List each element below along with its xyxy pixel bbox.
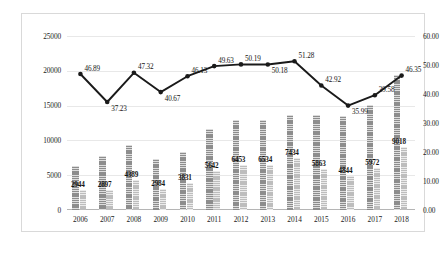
bar-value-label: 2944 [71,181,85,189]
y-tick-left: 15000 [19,101,61,110]
y-tick-right: 10.00 [423,177,439,186]
bar-series-a-item [233,120,239,210]
bar-value-label: 9018 [392,138,406,146]
line-marker [212,64,217,69]
line-value-label: 35.99 [352,108,368,116]
x-tick: 2011 [201,215,228,224]
line-marker [105,100,110,105]
chart-frame: 2944289743892984383156426453653474345863… [21,13,425,232]
line-value-label: 46.13 [192,67,208,75]
gridline [67,71,415,72]
x-tick: 2012 [228,215,255,224]
bar-series-b-item [106,190,112,210]
x-tick: 2008 [121,215,148,224]
y-tick-left: 0 [19,206,61,215]
line-marker [78,72,83,77]
line-value-label: 50.18 [272,67,288,75]
bar-series-b-item [80,190,86,211]
line-value-label: 46.89 [84,65,100,73]
bar-series-a-item [367,105,373,210]
bar-series-b-item [347,176,353,210]
bar-series-b-item [401,147,407,210]
line-marker [399,73,404,78]
y-tick-left: 25000 [19,32,61,41]
line-marker [319,83,324,88]
bar-value-label: 7434 [285,149,299,157]
gridline [67,140,415,141]
line-value-label: 39.58 [379,86,395,94]
line-marker [185,74,190,79]
bar-series-a-item [260,120,266,210]
line-value-label: 47.32 [138,63,154,71]
bar-series-b-item [160,189,166,210]
line-value-label: 50.19 [245,55,261,63]
y-tick-left: 10000 [19,136,61,145]
line-value-label: 40.67 [165,95,181,103]
bar-series-b-item [267,165,273,211]
bar-value-label: 6453 [232,156,246,164]
y-tick-right: 50.00 [423,61,439,70]
line-marker [239,62,244,67]
x-tick: 2009 [147,215,174,224]
gridline [67,36,415,37]
line-value-label: 37.23 [111,105,127,113]
bar-value-label: 5642 [205,162,219,170]
bar-series-b-item [374,168,380,210]
line-marker [158,90,163,95]
line-path [80,61,401,105]
bar-series-a-item [340,116,346,210]
line-value-label: 46.35 [406,66,422,74]
bar-value-label: 2897 [98,181,112,189]
y-tick-right: 60.00 [423,32,439,41]
bar-series-b-item [321,169,327,210]
y-tick-right: 30.00 [423,119,439,128]
x-tick: 2018 [388,215,415,224]
x-tick: 2015 [308,215,335,224]
bar-value-label: 2984 [151,180,165,188]
bar-series-a-item [287,115,293,210]
bar-series-b-item [133,180,139,211]
x-tick: 2014 [281,215,308,224]
x-tick: 2017 [362,215,389,224]
bar-value-label: 3831 [178,174,192,182]
line-value-label: 42.92 [325,76,341,84]
line-value-label: 49.63 [218,57,234,65]
bar-value-label: 5972 [365,159,379,167]
bar-series-b-item [294,158,300,210]
y-tick-right: 0.00 [423,206,435,215]
x-tick: 2016 [335,215,362,224]
y-tick-right: 40.00 [423,90,439,99]
line-marker [373,93,378,98]
bar-value-label: 6534 [258,156,272,164]
y-tick-left: 5000 [19,171,61,180]
x-tick: 2010 [174,215,201,224]
bar-value-label: 4844 [339,167,353,175]
bar-series-b-item [187,183,193,210]
line-value-label: 51.28 [299,52,315,60]
x-tick: 2006 [67,215,94,224]
line-marker [292,59,297,64]
y-tick-left: 20000 [19,66,61,75]
bar-value-label: 5863 [312,160,326,168]
bar-value-label: 4389 [124,171,138,179]
line-marker [266,62,271,67]
plot-area: 2944289743892984383156426453653474345863… [67,36,415,210]
bar-series-b-item [240,165,246,210]
x-tick: 2013 [254,215,281,224]
x-tick: 2007 [94,215,121,224]
bar-series-b-item [213,171,219,210]
y-tick-right: 20.00 [423,148,439,157]
